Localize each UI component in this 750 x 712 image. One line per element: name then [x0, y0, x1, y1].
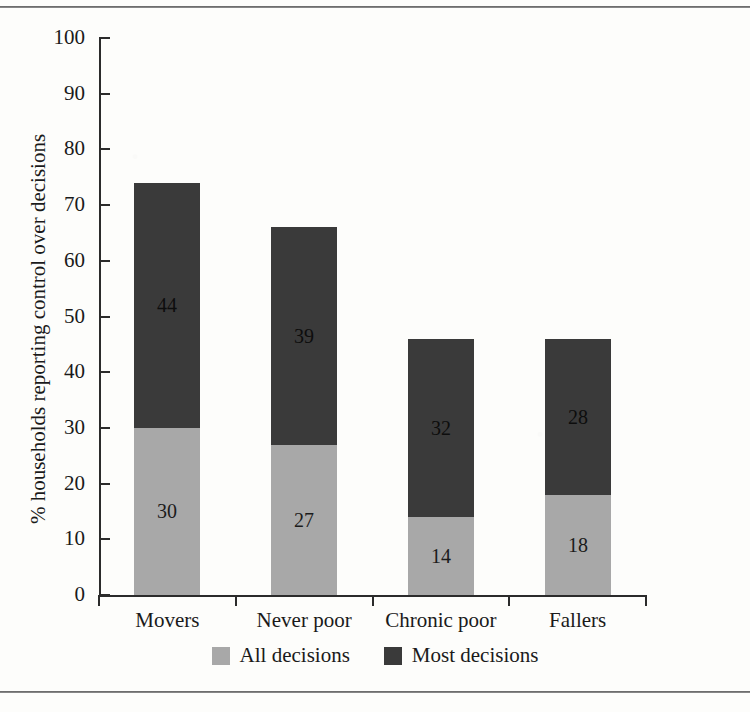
- chart-legend: All decisions Most decisions: [0, 645, 750, 666]
- bar-value-all-decisions: 30: [134, 501, 200, 521]
- y-tick-30: [99, 427, 110, 429]
- bar-segment-most-decisions: 28: [545, 339, 611, 495]
- bar-value-most-decisions: 28: [545, 407, 611, 427]
- y-tick-label-10: 10: [0, 528, 85, 549]
- bar-value-all-decisions: 18: [545, 535, 611, 555]
- y-tick-10: [99, 538, 110, 540]
- bar-segment-all-decisions: 14: [408, 517, 474, 595]
- x-tick-3: [508, 595, 510, 606]
- y-tick-label-100: 100: [0, 27, 85, 48]
- bar-segment-all-decisions: 30: [134, 428, 200, 595]
- bar-segment-most-decisions: 39: [271, 227, 337, 444]
- y-tick-20: [99, 483, 110, 485]
- y-tick-80: [99, 148, 110, 150]
- bar-movers: 4430: [134, 183, 200, 595]
- x-tick-4: [645, 595, 647, 606]
- y-tick-40: [99, 371, 110, 373]
- legend-label-all-decisions: All decisions: [240, 645, 350, 666]
- x-tick-2: [372, 595, 374, 606]
- y-tick-label-20: 20: [0, 473, 85, 494]
- x-tick-0: [98, 595, 100, 606]
- bar-segment-most-decisions: 44: [134, 183, 200, 428]
- y-tick-label-70: 70: [0, 194, 85, 215]
- y-tick-label-90: 90: [0, 83, 85, 104]
- x-tick-1: [235, 595, 237, 606]
- y-tick-90: [99, 93, 110, 95]
- y-tick-label-60: 60: [0, 250, 85, 271]
- x-axis-label-chronic-poor: Chronic poor: [373, 608, 510, 632]
- bar-segment-most-decisions: 32: [408, 339, 474, 517]
- bar-never-poor: 3927: [271, 227, 337, 595]
- legend-item-all-decisions: All decisions: [212, 645, 350, 666]
- bar-value-all-decisions: 27: [271, 510, 337, 530]
- stacked-bar-chart: % households reporting control over deci…: [0, 0, 750, 712]
- x-axis-label-never-poor: Never poor: [236, 608, 373, 632]
- y-tick-70: [99, 204, 110, 206]
- y-tick-label-50: 50: [0, 306, 85, 327]
- y-tick-label-40: 40: [0, 361, 85, 382]
- bar-value-most-decisions: 32: [408, 418, 474, 438]
- y-tick-0: [99, 594, 110, 596]
- figure-page: % households reporting control over deci…: [0, 0, 750, 712]
- y-tick-100: [99, 37, 110, 39]
- y-tick-label-0: 0: [0, 584, 85, 605]
- legend-swatch-all-decisions: [212, 647, 230, 665]
- bar-segment-all-decisions: 18: [545, 495, 611, 595]
- y-tick-label-30: 30: [0, 417, 85, 438]
- bar-segment-all-decisions: 27: [271, 445, 337, 595]
- legend-item-most-decisions: Most decisions: [384, 645, 539, 666]
- x-axis-label-movers: Movers: [99, 608, 236, 632]
- bar-value-most-decisions: 39: [271, 326, 337, 346]
- y-tick-50: [99, 316, 110, 318]
- x-axis-label-fallers: Fallers: [509, 608, 646, 632]
- bar-chronic-poor: 3214: [408, 339, 474, 595]
- y-tick-label-80: 80: [0, 138, 85, 159]
- bar-value-all-decisions: 14: [408, 546, 474, 566]
- y-axis-line: [99, 38, 101, 597]
- bar-fallers: 2818: [545, 339, 611, 595]
- legend-label-most-decisions: Most decisions: [412, 645, 539, 666]
- legend-swatch-most-decisions: [384, 647, 402, 665]
- y-tick-60: [99, 260, 110, 262]
- bar-value-most-decisions: 44: [134, 295, 200, 315]
